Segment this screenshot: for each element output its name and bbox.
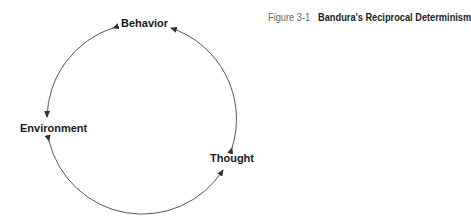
arrow-thought-to-behavior [171, 28, 236, 148]
arrow-behavior-to-environment [47, 28, 113, 117]
figure-title: Bandura's Reciprocal Determinism [318, 11, 471, 23]
arrow-environment-to-thought [49, 141, 223, 214]
node-thought: Thought [210, 152, 254, 164]
node-environment: Environment [20, 122, 87, 134]
node-behavior: Behavior [121, 17, 168, 29]
figure-caption: Figure 3-1Bandura's Reciprocal Determini… [268, 11, 471, 23]
figure-number: Figure 3-1 [268, 11, 310, 23]
